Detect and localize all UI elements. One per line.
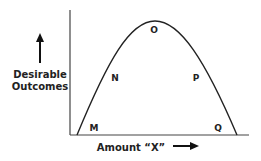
point-label-n: N <box>111 73 119 83</box>
point-label-p: P <box>193 73 200 83</box>
inverted-u-diagram: Desirable Outcomes Amount “X” M N O P Q <box>0 0 261 161</box>
up-arrow-icon <box>36 33 44 63</box>
y-axis-label-line1: Desirable <box>13 69 67 80</box>
x-axis-label: Amount “X” <box>97 142 165 153</box>
right-arrow-icon <box>173 142 199 150</box>
point-label-o: O <box>150 25 158 35</box>
outcome-curve <box>77 21 237 135</box>
y-axis-label-line2: Outcomes <box>12 81 68 92</box>
point-label-q: Q <box>214 123 222 133</box>
point-label-m: M <box>90 123 99 133</box>
